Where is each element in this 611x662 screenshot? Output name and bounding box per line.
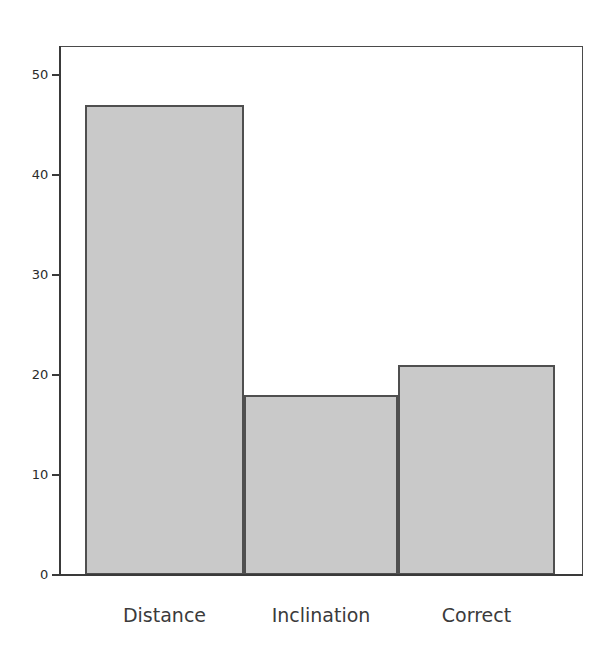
- y-tick-label-10: 10: [8, 467, 48, 482]
- bar-inclination: [244, 395, 398, 575]
- y-tick-mark-0: [52, 574, 61, 576]
- y-tick-label-50: 50: [8, 67, 48, 82]
- bars-layer: [0, 0, 611, 662]
- y-tick-label-40: 40: [8, 167, 48, 182]
- y-tick-mark-50: [52, 74, 61, 76]
- y-tick-label-20: 20: [8, 367, 48, 382]
- y-tick-mark-30: [52, 274, 61, 276]
- x-category-label-distance: Distance: [85, 604, 244, 626]
- x-category-label-inclination: Inclination: [240, 604, 402, 626]
- bar-chart-figure: 50 40 30 20 10 0 Distance Inclination Co…: [0, 0, 611, 662]
- y-tick-label-0: 0: [8, 567, 48, 582]
- y-axis-line: [59, 46, 61, 576]
- y-tick-mark-20: [52, 374, 61, 376]
- y-tick-mark-10: [52, 474, 61, 476]
- y-tick-label-30: 30: [8, 267, 48, 282]
- bar-correct: [398, 365, 555, 575]
- bar-distance: [85, 105, 244, 575]
- x-category-label-correct: Correct: [398, 604, 555, 626]
- y-tick-mark-40: [52, 174, 61, 176]
- x-axis-line: [59, 574, 583, 576]
